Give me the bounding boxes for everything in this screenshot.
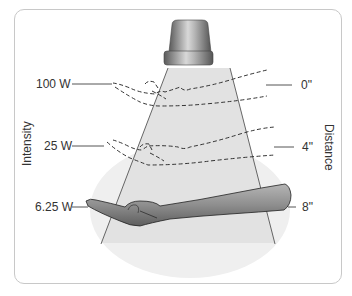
intensity-label-100w: 100 W	[36, 78, 71, 90]
distance-label-4in: 4"	[302, 141, 313, 153]
heat-lamp-icon	[164, 20, 213, 65]
distance-label-0in: 0"	[301, 79, 312, 91]
intensity-axis-label: Intensity	[21, 121, 33, 166]
distance-label-8in: 8"	[302, 201, 313, 213]
intensity-label-25w: 25 W	[44, 140, 72, 152]
cropped-caption-strip	[12, 288, 342, 296]
intensity-label-6w: 6.25 W	[35, 201, 73, 213]
distance-axis-label: Distance	[323, 124, 335, 171]
